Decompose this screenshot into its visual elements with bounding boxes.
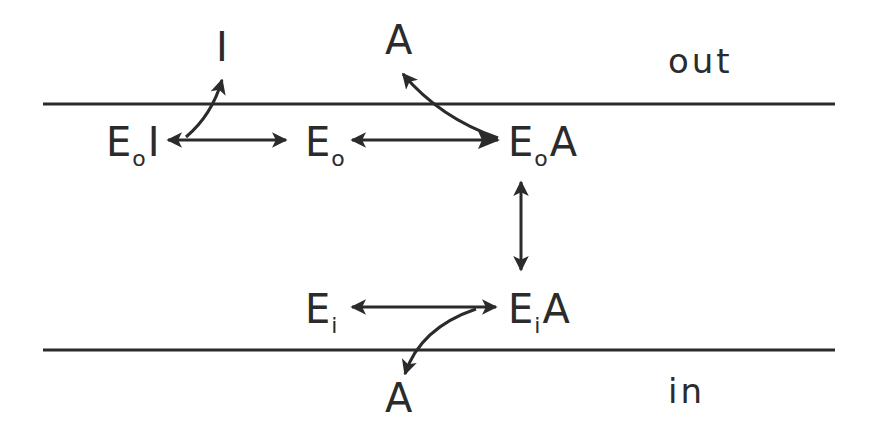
node-Ei-subscript: i xyxy=(331,315,337,337)
node-EoA-base: E xyxy=(508,122,533,162)
node-Ei-base: E xyxy=(305,289,330,329)
node-EoA-ligand: A xyxy=(550,122,577,162)
label-substrate-out: A xyxy=(385,20,412,60)
label-inhibitor-out: I xyxy=(216,27,228,67)
node-Ei: E i xyxy=(305,289,337,329)
node-EiA-ligand: A xyxy=(542,289,569,329)
arrow-EoI-release-I xyxy=(186,80,222,137)
node-EiA-subscript: i xyxy=(534,315,540,337)
node-EiA: E i A xyxy=(508,289,570,329)
node-EoA-subscript: o xyxy=(534,148,547,170)
transport-scheme-diagram xyxy=(0,0,873,434)
arrow-EoA-release-A-out xyxy=(403,74,498,138)
node-Eo-subscript: o xyxy=(331,148,344,170)
node-EoI-subscript: o xyxy=(132,148,145,170)
label-region-in: in xyxy=(668,374,705,408)
node-EoI: E o I xyxy=(106,122,160,162)
label-substrate-in: A xyxy=(385,378,412,418)
node-EoA: E o A xyxy=(508,122,577,162)
label-region-out: out xyxy=(668,44,733,78)
node-EiA-base: E xyxy=(508,289,533,329)
node-Eo: E o xyxy=(305,122,345,162)
node-Eo-base: E xyxy=(305,122,330,162)
node-EoI-ligand: I xyxy=(148,122,160,162)
arrow-EiA-release-A-in xyxy=(405,309,476,374)
node-EoI-base: E xyxy=(106,122,131,162)
